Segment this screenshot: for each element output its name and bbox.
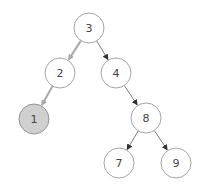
node-label: 3	[86, 22, 93, 35]
tree-node-3[interactable]: 3	[74, 13, 104, 43]
edges	[42, 41, 167, 150]
tree-diagram: 3241879	[0, 0, 203, 191]
edge-3-to-4	[97, 41, 108, 59]
node-label: 9	[173, 157, 180, 170]
edge-2-to-1	[42, 86, 53, 105]
nodes: 3241879	[19, 13, 191, 178]
tree-node-9[interactable]: 9	[161, 148, 191, 178]
node-label: 4	[113, 67, 120, 80]
tree-svg: 3241879	[0, 0, 203, 191]
node-label: 7	[116, 157, 123, 170]
tree-node-2[interactable]: 2	[45, 58, 75, 88]
node-label: 2	[57, 67, 64, 80]
node-label: 8	[143, 112, 150, 125]
tree-node-8[interactable]: 8	[131, 103, 161, 133]
edge-4-to-8	[124, 86, 137, 105]
edge-8-to-9	[154, 131, 167, 150]
tree-node-7[interactable]: 7	[104, 148, 134, 178]
node-label: 1	[31, 113, 38, 126]
edge-8-to-7	[127, 131, 138, 149]
edge-3-to-2	[69, 41, 81, 60]
tree-node-1[interactable]: 1	[19, 104, 49, 134]
tree-node-4[interactable]: 4	[101, 58, 131, 88]
